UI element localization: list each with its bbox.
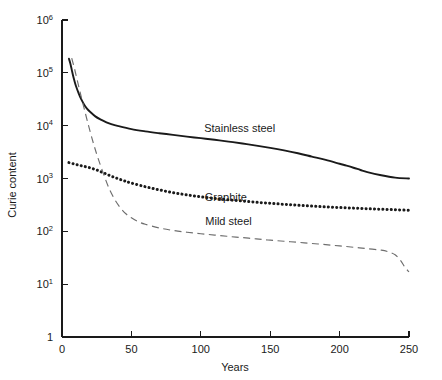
y-tick-label: 106 [37,13,53,27]
y-tick-label: 102 [37,224,53,238]
y-tick-label: 103 [37,171,53,185]
y-tick-label: 101 [37,277,53,291]
y-tick-label: 105 [37,65,53,79]
series-label-mild-steel: Mild steel [205,215,251,227]
x-tick-label: 100 [192,343,210,355]
series-annotation-group: Stainless steelGraphiteMild steel [204,122,275,226]
series-line-mild-steel [72,58,409,272]
series-label-stainless-steel: Stainless steel [204,122,275,134]
data-series-group [69,58,409,272]
y-tick-label: 1 [47,331,53,343]
x-tick-label: 250 [400,343,418,355]
x-tick-label: 0 [59,343,65,355]
x-tick-label: 50 [125,343,137,355]
y-axis-title: Curie content [6,152,18,217]
x-axis-title: Years [221,361,249,373]
x-tick-label: 150 [261,343,279,355]
series-label-graphite: Graphite [205,191,247,203]
y-axis-ticks: 1061051041031021011 [37,13,68,344]
curie-content-decay-chart: 1061051041031021011 050100150200250 Stai… [0,0,442,380]
chart-container: 1061051041031021011 050100150200250 Stai… [0,0,442,380]
y-tick-label: 104 [37,118,53,132]
plot-axes [62,20,409,337]
x-tick-label: 200 [330,343,348,355]
x-axis-ticks: 050100150200250 [59,331,418,355]
series-line-stainless-steel [69,59,409,179]
